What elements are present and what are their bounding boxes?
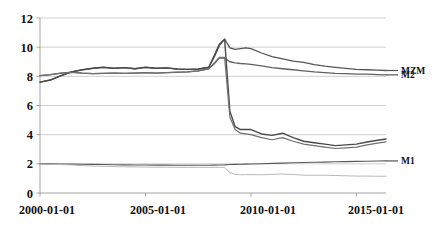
y-axis-tick-label: 8 [27,70,33,84]
y-axis-ticks-group [37,18,41,193]
x-axis-tick-label: 2000-01-01 [19,203,75,217]
y-axis-tick-label: 2 [27,157,33,171]
series-group [40,39,386,176]
y-axis-tick-label: 4 [27,128,34,142]
x-axis-tick-label: 2015-01-01 [348,203,404,217]
chart-container: 024681012 2000-01-012005-01-012010-01-01… [0,0,436,230]
series-line-m1 [40,161,386,165]
x-axis-tick-label: 2010-01-01 [240,203,296,217]
x-axis-ticks-group [40,193,356,197]
legend-label-m2: M2 [401,70,415,80]
x-axis-labels-group: 2000-01-012005-01-012010-01-012015-01-01 [19,203,404,217]
series-line-mzm-crash [40,39,386,145]
y-axis-tick-label: 6 [27,99,33,113]
series-line-m1-lower [40,164,386,176]
gridlines-group [40,18,386,193]
series-line-mzm [40,39,386,82]
legend-label-m1: M1 [401,156,415,166]
legend-group: MZMM2M1 [386,66,425,166]
line-chart: 024681012 2000-01-012005-01-012010-01-01… [0,0,436,230]
y-axis-tick-label: 0 [27,187,33,201]
y-axis-tick-label: 12 [21,12,34,26]
x-axis-tick-label: 2005-01-01 [130,203,186,217]
y-axis-labels-group: 024681012 [21,12,34,201]
y-axis-tick-label: 10 [21,41,34,55]
